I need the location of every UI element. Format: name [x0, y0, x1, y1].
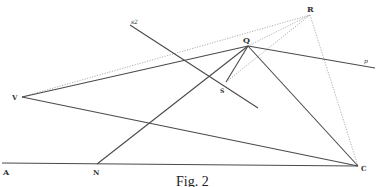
- line-q-p: [248, 46, 375, 68]
- label-s2: s2: [131, 18, 138, 25]
- line-v-c: [22, 97, 358, 166]
- label-v: V: [11, 93, 18, 102]
- line-v-q: [22, 46, 248, 97]
- dotted-line-r-c: [310, 15, 358, 166]
- line-q-c: [248, 46, 358, 166]
- label-r: R: [307, 4, 314, 14]
- line-n-q: [97, 46, 248, 164]
- label-n: N: [93, 168, 100, 177]
- label-p: p: [364, 57, 368, 65]
- label-s: S: [220, 87, 224, 94]
- geometry-figure: A N C V Q R S s2 p Fig. 2: [0, 0, 377, 187]
- figure-caption: Fig. 2: [176, 174, 209, 187]
- dotted-line-q-r: [248, 15, 310, 46]
- label-q: Q: [243, 35, 250, 45]
- dotted-line-v-r: [22, 15, 310, 97]
- line-s-q: [226, 46, 248, 82]
- line-a-c: [2, 163, 358, 166]
- line-s2-s: [130, 25, 258, 108]
- label-c: C: [361, 164, 367, 173]
- label-a: A: [2, 167, 10, 177]
